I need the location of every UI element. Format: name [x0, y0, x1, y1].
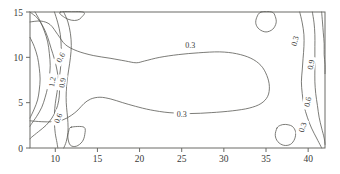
x-tick-label-10: 10	[51, 154, 61, 164]
contour-lines-group	[30, 11, 325, 148]
x-tick-label-40: 40	[303, 154, 313, 164]
contour-line-contour-0.3-central	[30, 21, 269, 122]
contour-label-text: 0.9	[57, 77, 67, 88]
label-center-upper: 0.3	[182, 40, 198, 50]
contour-label-text: 0.6	[302, 96, 313, 108]
contour-line-blob-bottom-right	[275, 124, 295, 145]
label-right-06: 0.6	[301, 93, 314, 111]
label-left-06-lower: 0.6	[51, 109, 66, 127]
contour-line-contour-0.9-left	[30, 12, 50, 126]
x-tick-label-30: 30	[219, 154, 229, 164]
contour-label-text: 1.2	[47, 76, 58, 87]
label-left-06-upper: 0.6	[53, 48, 69, 67]
label-right-09: 0.9	[305, 56, 318, 74]
chart-canvas: 10152025303540051015 0.30.30.61.20.90.60…	[0, 0, 340, 174]
y-tick-label-0: 0	[18, 144, 23, 154]
plot-frame	[30, 12, 325, 148]
label-center-lower: 0.3	[174, 110, 190, 120]
contour-label-text: 0.3	[177, 110, 187, 119]
label-right-03-lower: 0.3	[295, 118, 309, 136]
x-tick-label-15: 15	[93, 154, 103, 164]
y-tick-label-10: 10	[14, 53, 24, 63]
contour-line-blob-top-left	[59, 11, 84, 20]
y-tick-label-5: 5	[18, 98, 23, 108]
contour-labels-group: 0.30.30.61.20.90.60.30.90.60.3	[46, 32, 317, 136]
plot-frame-rect	[30, 12, 325, 148]
label-right-03-upper: 0.3	[288, 32, 301, 50]
contour-line-blob-top-right	[256, 11, 277, 32]
contour-plot: 10152025303540051015 0.30.30.61.20.90.60…	[0, 0, 340, 174]
contour-label-text: 0.3	[185, 41, 195, 50]
contour-line-blob-bottom-left	[68, 126, 85, 146]
contour-line-contour-1.2-left	[30, 37, 40, 118]
y-tick-label-15: 15	[14, 8, 24, 18]
x-tick-label-35: 35	[261, 154, 271, 164]
x-tick-label-20: 20	[135, 154, 145, 164]
x-tick-label-25: 25	[177, 154, 187, 164]
